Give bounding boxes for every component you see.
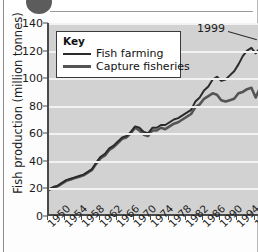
gridline-60 xyxy=(49,133,258,135)
series-line-capture-fisheries xyxy=(49,88,258,190)
figure: 020406080100120140 Fish production (mill… xyxy=(0,0,258,252)
gridline-80 xyxy=(49,106,258,108)
y-tick-label-80: 80 xyxy=(29,99,43,112)
legend-item-capture-fisheries: Capture fisheries xyxy=(63,60,175,73)
legend-label-fish-farming: Fish farming xyxy=(96,47,163,60)
x-axis: 1950195419581962196619701974197819821986… xyxy=(47,216,258,252)
gridline-140 xyxy=(49,23,258,25)
gridline-40 xyxy=(49,161,258,163)
legend-title: Key xyxy=(63,35,175,47)
legend: Key Fish farming Capture fisheries xyxy=(56,31,181,78)
y-tick-label-120: 120 xyxy=(22,44,43,57)
y-tick-label-60: 60 xyxy=(29,127,43,140)
annotation-1999: 1999 xyxy=(197,22,225,35)
y-tick-label-0: 0 xyxy=(36,210,43,223)
gridline-100 xyxy=(49,78,258,80)
y-tick-label-20: 20 xyxy=(29,182,43,195)
y-tick-label-40: 40 xyxy=(29,154,43,167)
y-tick-label-100: 100 xyxy=(22,72,43,85)
legend-label-capture-fisheries: Capture fisheries xyxy=(96,60,190,73)
legend-swatch-capture-fisheries xyxy=(63,65,91,68)
legend-swatch-fish-farming xyxy=(63,53,91,55)
legend-item-fish-farming: Fish farming xyxy=(63,47,175,60)
y-axis-title: Fish production (million tonnes) xyxy=(11,8,25,198)
y-tick-label-140: 140 xyxy=(22,17,43,30)
gridline-20 xyxy=(49,188,258,190)
header-divider xyxy=(32,11,253,12)
